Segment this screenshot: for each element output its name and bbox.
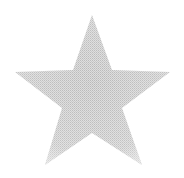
star-graphic (0, 0, 184, 178)
image-canvas (0, 0, 184, 178)
star-soft-edge-overlay (15, 15, 170, 165)
